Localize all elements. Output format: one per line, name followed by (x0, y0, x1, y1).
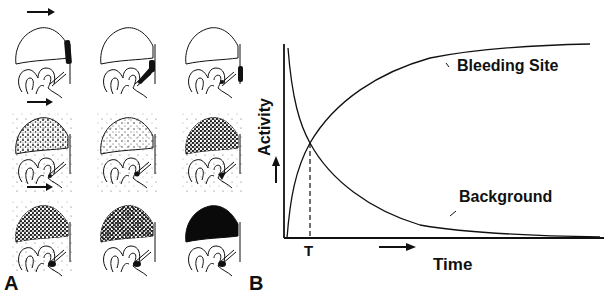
frame-r3c1 (10, 200, 74, 276)
background-label: Background (459, 188, 552, 206)
y-axis-up-arrow-icon (272, 156, 280, 183)
x-tick-t: T (304, 242, 313, 259)
row-1-arrow-icon (27, 8, 55, 16)
frame-r1c3 (186, 28, 243, 98)
background-curve (288, 48, 600, 237)
panel-b-label: B (249, 272, 263, 295)
bleeding-site-label: Bleeding Site (457, 57, 558, 75)
x-axis-right-arrow-icon (379, 243, 416, 251)
frame-r1c1 (16, 28, 72, 98)
row-2-arrow-icon (27, 98, 53, 106)
x-axis-label: Time (433, 255, 472, 275)
frame-r2c1 (10, 112, 74, 192)
y-axis-label: Activity (256, 98, 274, 156)
frame-r3c3 (186, 206, 240, 276)
frame-r1c2 (101, 28, 155, 98)
bleeding-site-pointer (446, 63, 449, 67)
frame-r2c2 (95, 112, 159, 192)
background-pointer (450, 211, 456, 216)
frame-r2c3 (180, 112, 244, 192)
frame-r3c2 (101, 206, 155, 276)
panel-a-label: A (4, 272, 18, 295)
panel-a-frames (10, 8, 244, 276)
chart-b (272, 44, 604, 251)
